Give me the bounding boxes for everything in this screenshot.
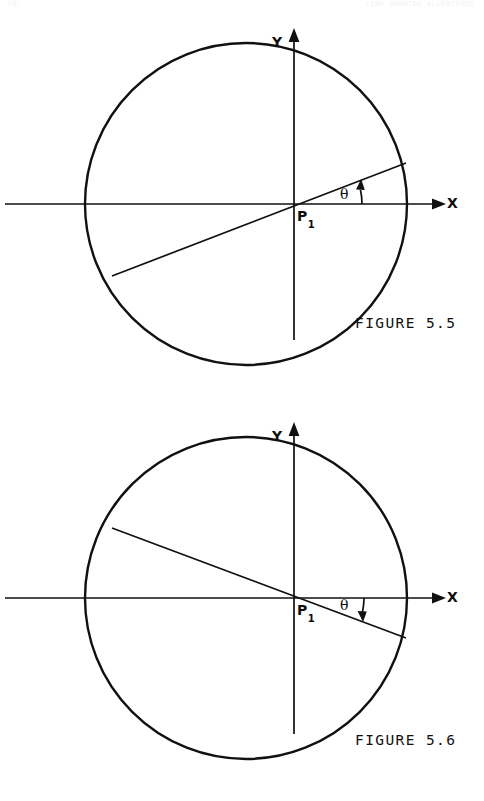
angle-arc — [361, 190, 363, 204]
theta-angle-label: θ — [340, 186, 348, 202]
x-axis-label: X — [447, 195, 458, 211]
scanned-page: 56 LINE DRAWING ALGORITHMS Y X θ P1 FIGU… — [0, 0, 484, 801]
y-axis-label: Y — [272, 428, 282, 444]
origin-point-letter: P — [297, 602, 307, 618]
figure-5-5-caption: FIGURE 5.5 — [355, 315, 456, 331]
y-axis-arrowhead — [289, 422, 300, 436]
chord-line — [112, 163, 406, 276]
angle-arc — [363, 598, 365, 612]
figure-5-5: Y X θ P1 FIGURE 5.5 — [0, 0, 484, 400]
origin-point-letter: P — [297, 208, 307, 224]
x-axis-arrowhead — [432, 593, 446, 604]
x-axis-label: X — [447, 589, 458, 605]
chord-line — [112, 528, 406, 638]
origin-point-label: P1 — [297, 602, 314, 621]
figure-5-6: Y X θ P1 FIGURE 5.6 — [0, 400, 484, 801]
theta-angle-label: θ — [340, 597, 348, 613]
origin-point-subscript: 1 — [308, 219, 315, 230]
y-axis-label: Y — [272, 34, 282, 50]
figure-5-6-caption: FIGURE 5.6 — [355, 732, 456, 748]
figure-5-5-drawing — [0, 0, 484, 400]
y-axis-arrowhead — [289, 28, 300, 42]
origin-point-subscript: 1 — [308, 613, 315, 624]
x-axis-arrowhead — [432, 199, 446, 210]
origin-point-label: P1 — [297, 208, 314, 227]
angle-arc-arrowhead — [356, 179, 365, 190]
